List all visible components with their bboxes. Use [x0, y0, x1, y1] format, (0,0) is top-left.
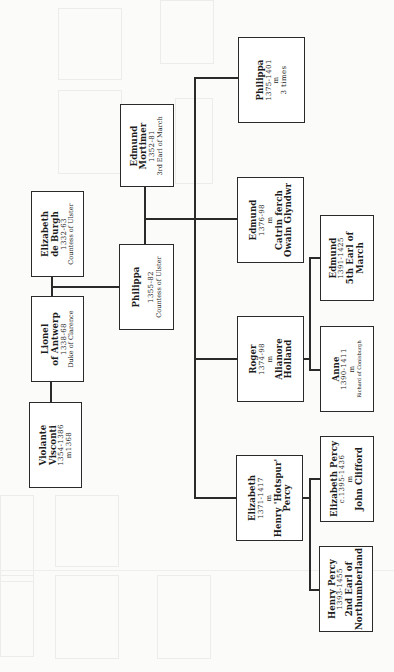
person-box-violante: Violante Visconti 1354-1386 m1368: [29, 402, 82, 488]
person-box-elizabeth-1371: Elizabeth 1371-1417 m Henry 'Hotspur' Pe…: [236, 455, 303, 541]
person-title: Countess of Ulster: [155, 256, 162, 317]
ghost-box: [55, 495, 119, 567]
ghost-box: [58, 8, 122, 80]
person-box-roger: Roger 1374-98 m Alianore Holland: [237, 316, 304, 402]
person-dates: 1355-82: [147, 271, 155, 303]
ghost-box: [58, 90, 122, 174]
person-name: Lionel: [40, 324, 50, 355]
connector-to-elizabeth-1371: [194, 497, 236, 499]
connector-to-philippa-1375: [194, 77, 238, 79]
connector-to-anne: [309, 369, 320, 371]
person-box-philippa-1375: Philippa 1375-1401 m 3 times: [238, 37, 305, 123]
person-spouse: Owain Glyndwr: [283, 183, 293, 257]
person-spouse: Holland: [283, 340, 293, 379]
person-dates: 1374-98: [258, 343, 266, 375]
person-title: Duke of Clarence: [67, 310, 74, 367]
connector-to-elizabeth-percy: [309, 478, 320, 480]
person-name: Philippa: [255, 60, 265, 101]
person-title: Northumberland: [355, 548, 365, 630]
ghost-box: [55, 575, 119, 659]
connector-to-philippa-ulster: [51, 286, 119, 288]
person-title: 3rd Earl of March: [157, 116, 164, 175]
ghost-box: [160, 0, 214, 64]
connector-children-trunk: [194, 77, 196, 498]
person-name: Philippa: [131, 267, 141, 308]
person-title: Countess of Ulster: [67, 203, 74, 264]
person-box-edmund-mortimer: Edmund Mortimer 1352-81 3rd Earl of Marc…: [120, 104, 174, 187]
ghost-box: [0, 495, 34, 582]
person-spouse: 3 times: [280, 66, 288, 95]
connector-roger-trunk: [309, 257, 311, 370]
person-box-elizabeth-percy: Elizabeth Percy c.1395-1436 m John Cliff…: [320, 436, 374, 522]
person-box-edmund-1376: Edmund 1376-98 m Catrin ferch Owain Glyn…: [237, 177, 304, 263]
person-box-edmund-1391: Edmund 1391-1425 5th Earl of March: [320, 215, 374, 301]
connector-to-edmund-1391: [309, 257, 320, 259]
connector-elizabeth-trunk: [309, 478, 311, 590]
person-box-philippa-ulster: Philippa 1355-82 Countess of Ulster: [119, 244, 174, 330]
person-spouse: Percy: [282, 485, 292, 512]
person-name: Edmund: [248, 200, 258, 241]
person-name: Elizabeth: [247, 475, 257, 521]
person-spouse: John Clifford: [355, 447, 365, 511]
person-marriage: m: [266, 216, 274, 223]
ghost-box: [157, 575, 211, 659]
person-title: March: [356, 242, 366, 274]
connector-to-henry-percy: [309, 589, 319, 591]
connector-lionel-violante: [50, 382, 52, 402]
person-marriage: m: [266, 355, 274, 362]
person-spouse: Richard of Conisburgh: [357, 340, 363, 397]
person-marriage: m1368: [65, 432, 73, 458]
person-dates: 1376-98: [258, 204, 266, 236]
person-name: Elizabeth: [40, 211, 50, 257]
person-box-anne: Anne 1390-1411 m Richard of Conisburgh: [320, 326, 374, 412]
connector-philippa-edmund: [144, 186, 146, 244]
person-name: Roger: [248, 344, 258, 373]
person-marriage: m: [265, 494, 273, 501]
person-dates: 1371-1417: [257, 477, 265, 519]
person-box-elizabeth-de-burgh: Elizabeth de Burgh 1332-63 Countess of U…: [31, 191, 84, 277]
ghost-box: [0, 575, 34, 657]
connector-descent: [144, 218, 237, 220]
person-box-henry-percy: Henry Percy 1393-1455 2nd Earl of Northu…: [319, 546, 373, 632]
connector-to-roger: [194, 358, 237, 360]
person-name: of Antwerp: [50, 312, 60, 366]
person-name: de Burgh: [50, 211, 60, 257]
person-name: Violante: [38, 425, 48, 466]
person-box-lionel: Lionel of Antwerp 1338-68 Duke of Claren…: [31, 296, 84, 382]
